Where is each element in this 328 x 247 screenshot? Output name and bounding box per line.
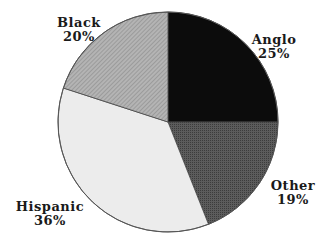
label-black: Black 20% [52,16,106,44]
label-other: Other 19% [263,179,323,207]
label-hispanic: Hispanic 36% [12,200,88,228]
label-other-pct: 19% [263,193,323,207]
label-hispanic-pct: 36% [12,214,88,228]
label-other-name: Other [263,179,323,193]
label-hispanic-name: Hispanic [12,200,88,214]
label-black-name: Black [52,16,106,30]
label-anglo: Anglo 25% [244,33,304,61]
label-anglo-pct: 25% [244,47,304,61]
label-black-pct: 20% [52,30,106,44]
label-anglo-name: Anglo [244,33,304,47]
slice-anglo [168,12,278,122]
